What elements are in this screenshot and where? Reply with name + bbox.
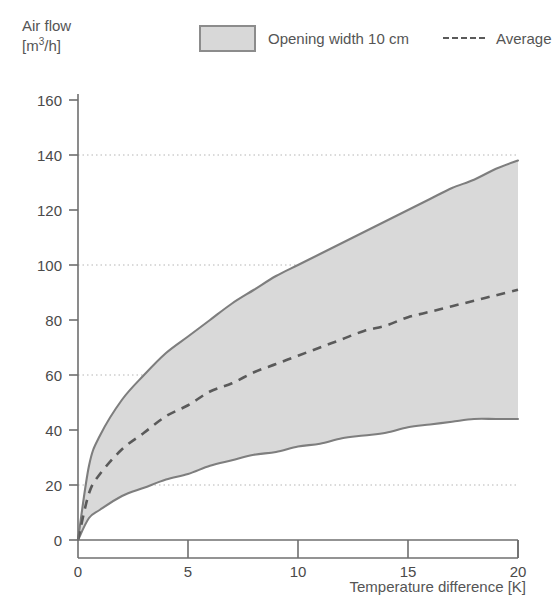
y-tick-label-120: 120 [37, 202, 62, 219]
x-tick-label-5: 5 [184, 563, 192, 580]
band-fill-opening-width [78, 161, 518, 541]
data-band-group [78, 161, 518, 541]
x-tick-label-0: 0 [74, 563, 82, 580]
y-tick-label-40: 40 [45, 422, 62, 439]
y-tick-label-20: 20 [45, 477, 62, 494]
y-tick-label-80: 80 [45, 312, 62, 329]
x-axis-title: Temperature difference [K] [350, 578, 526, 595]
y-tick-label-160: 160 [37, 92, 62, 109]
y-tick-label-140: 140 [37, 147, 62, 164]
x-tick-label-10: 10 [290, 563, 307, 580]
y-tick-label-100: 100 [37, 257, 62, 274]
y-tick-label-0: 0 [54, 532, 62, 549]
y-tick-label-60: 60 [45, 367, 62, 384]
